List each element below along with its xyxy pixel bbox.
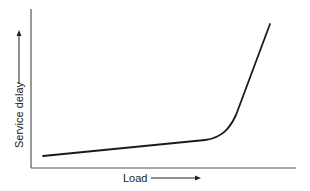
x-axis-arrow-icon [195,176,201,181]
y-axis-arrow-icon [17,30,22,36]
service-delay-curve [43,24,270,156]
y-axis-label-group: Service delay [13,30,25,148]
y-axis-label: Service delay [13,81,25,148]
chart: Service delay Load [0,0,310,191]
x-axis-label: Load [123,172,147,184]
